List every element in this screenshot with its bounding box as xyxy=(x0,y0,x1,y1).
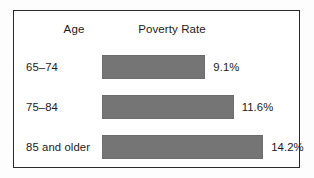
column-header-age: Age xyxy=(42,23,106,35)
chart-frame: Age Poverty Rate 65–74 9.1% 75–84 11.6% … xyxy=(13,10,300,168)
bar-row: 75–84 11.6% xyxy=(14,87,299,127)
column-header-row: Age Poverty Rate xyxy=(14,23,299,43)
bar-row-label: 85 and older xyxy=(26,141,102,153)
bar-value-label: 9.1% xyxy=(213,61,239,73)
bar-row: 65–74 9.1% xyxy=(14,47,299,87)
bar-track: 11.6% xyxy=(102,95,295,119)
bar-row: 85 and older 14.2% xyxy=(14,127,299,167)
bar-value-label: 14.2% xyxy=(271,141,304,153)
bar-chart-rows: 65–74 9.1% 75–84 11.6% 85 and older 14.2… xyxy=(14,47,299,167)
column-header-poverty-rate: Poverty Rate xyxy=(102,23,242,35)
bar-row-label: 65–74 xyxy=(26,61,102,73)
bar xyxy=(102,55,205,79)
bar-row-label: 75–84 xyxy=(26,101,102,113)
bar xyxy=(102,95,234,119)
bar-value-label: 11.6% xyxy=(242,101,274,113)
bar-track: 9.1% xyxy=(102,55,295,79)
figure-root: Age Poverty Rate 65–74 9.1% 75–84 11.6% … xyxy=(0,0,314,178)
bar-track: 14.2% xyxy=(102,135,295,159)
bar xyxy=(102,135,263,159)
